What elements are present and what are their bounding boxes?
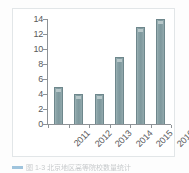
y-axis-tick-mark [43,64,47,65]
y-axis-tick-label: 4 [17,90,43,99]
bar-highlight [76,96,81,99]
x-axis-tick-label: 2015 [155,129,175,149]
bar [156,19,165,124]
y-axis-tick-label: 10 [17,45,43,54]
y-axis-tick-label: 12 [17,30,43,39]
x-axis-tick-label: 2011 [73,129,92,148]
bar-highlight [97,96,102,99]
x-axis-tick-label: 2013 [114,129,134,149]
y-axis-tick-mark [43,94,47,95]
bar-chart-figure-panel: 02468101214 201120122013201420152016 [12,8,175,157]
bar-highlight [117,59,122,62]
bar-highlight [158,21,163,24]
y-axis-tick-label: 14 [17,15,43,24]
y-axis-tick-label: 2 [17,105,43,114]
y-axis-tick-mark [43,19,47,20]
y-axis-tick-label: 6 [17,75,43,84]
y-axis-tick-mark [43,124,47,125]
y-axis-tick-label: 0 [17,120,43,129]
bar-series [48,19,171,124]
bar [95,94,104,124]
bar-highlight [56,89,61,92]
x-axis-tick-label: 2014 [134,129,154,149]
bar [136,27,145,125]
x-axis-tick-label: 2012 [93,129,113,149]
x-axis-tick-labels: 201120122013201420152016 [48,127,171,157]
bar [54,87,63,125]
x-axis-tick-mark [171,125,172,128]
y-axis-tick-mark [43,34,47,35]
figure-caption: 图 1-3 北京地区高等院校数量统计 [12,163,175,171]
y-axis-tick-mark [43,109,47,110]
y-axis-tick-mark [43,79,47,80]
caption-label: 图 1-3 北京地区高等院校数量统计 [26,164,131,171]
bar-highlight [138,29,143,32]
y-axis-tick-label: 8 [17,60,43,69]
bar [115,57,124,125]
y-axis-tick-labels: 02468101214 [13,9,43,156]
x-axis-tick-label: 2016 [175,129,189,149]
caption-marker-icon [12,166,23,169]
plot-area: 02468101214 201120122013201420152016 [13,9,174,156]
bar [74,94,83,124]
y-axis-tick-mark [43,49,47,50]
